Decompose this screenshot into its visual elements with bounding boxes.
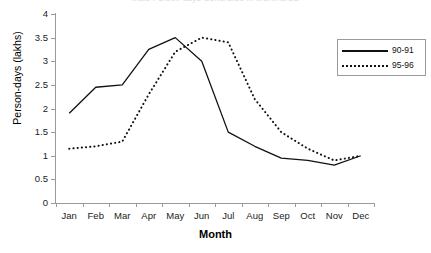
x-axis-tick-mark	[321, 203, 322, 207]
x-axis-tick-mark	[374, 203, 375, 207]
x-axis-tick-mark	[215, 203, 216, 207]
x-axis-tick-mark	[348, 203, 349, 207]
legend-entry-95-96: 95-96	[342, 60, 422, 71]
y-axis-tick-label: 0.5	[22, 173, 48, 184]
y-axis-tick-label: 4	[22, 8, 48, 19]
y-axis-tick-mark	[51, 85, 55, 86]
y-axis-tick-mark	[51, 203, 55, 204]
y-axis-tick-label: 1	[22, 150, 48, 161]
y-axis-tick-label: 3	[22, 55, 48, 66]
y-axis-tick-label: 2.5	[22, 79, 48, 90]
legend-swatch-solid	[342, 50, 388, 52]
chart-title: Male Person-days Generated in MGNREGS	[0, 0, 431, 3]
x-axis-tick-mark	[109, 203, 110, 207]
legend-swatch-dotted	[342, 65, 388, 67]
legend-label: 90-91	[392, 45, 414, 55]
chart-container: Male Person-days Generated in MGNREGS Pe…	[0, 0, 431, 253]
y-axis-line	[55, 13, 56, 204]
chart-legend: 90-91 95-96	[337, 39, 426, 76]
legend-label: 95-96	[392, 60, 414, 70]
y-axis-tick-label: 3.5	[22, 32, 48, 43]
x-axis-tick-label: Dec	[341, 210, 381, 221]
x-axis-tick-mark	[295, 203, 296, 207]
x-axis-tick-mark	[56, 203, 57, 207]
x-axis-tick-mark	[189, 203, 190, 207]
series-line-90-91	[69, 38, 361, 166]
y-axis-tick-mark	[51, 61, 55, 62]
x-axis-tick-mark	[136, 203, 137, 207]
y-axis-tick-label: 2	[22, 103, 48, 114]
series-line-95-96	[69, 38, 361, 161]
y-axis-tick-mark	[51, 156, 55, 157]
y-axis-tick-label: 0	[22, 197, 48, 208]
y-axis-tick-mark	[51, 14, 55, 15]
y-axis-tick-label: 1.5	[22, 126, 48, 137]
y-axis-tick-mark	[51, 38, 55, 39]
y-axis-tick-mark	[51, 179, 55, 180]
x-axis-tick-mark	[83, 203, 84, 207]
x-axis-title: Month	[0, 228, 431, 240]
y-axis-tick-mark	[51, 109, 55, 110]
x-axis-tick-mark	[242, 203, 243, 207]
legend-entry-90-91: 90-91	[342, 45, 422, 56]
x-axis-tick-mark	[268, 203, 269, 207]
y-axis-tick-mark	[51, 132, 55, 133]
x-axis-tick-mark	[162, 203, 163, 207]
